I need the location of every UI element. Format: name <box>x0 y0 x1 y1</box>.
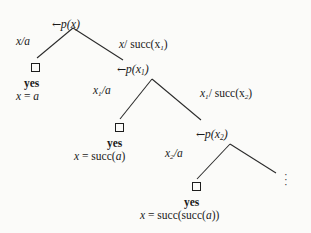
edge-label-l1-left-term: a <box>105 84 111 96</box>
left-arrow-icon-level2: ← <box>196 128 205 141</box>
edge-label-root-right-close: ) <box>164 38 168 50</box>
empty-clause-box-1 <box>31 63 40 72</box>
leaf-answer-3-close: )) <box>212 209 220 221</box>
goal-node-level2: ←p(x2) <box>196 128 228 140</box>
goal-node-level1: ←p(x1) <box>117 63 149 75</box>
leaf-yes-1: yes <box>24 77 39 89</box>
leaf-answer-1: x = a <box>16 90 39 102</box>
edge-label-root-right: x/ succ(x1) <box>119 39 168 51</box>
goal-level1-label: p(x <box>126 62 141 76</box>
edge-l2-right <box>230 144 276 173</box>
edge-label-l1-right-close: ) <box>248 87 252 99</box>
vertical-ellipsis-icon: · · · <box>284 172 287 187</box>
goal-level1-close: ) <box>145 62 149 76</box>
leaf-yes-3: yes <box>184 196 199 208</box>
empty-clause-box-2 <box>115 123 124 132</box>
empty-clause-box-3 <box>192 182 201 191</box>
edge-label-root-right-term: succ(x <box>130 38 160 50</box>
edge-label-l1-right: x1/ succ(x2) <box>200 88 252 100</box>
leaf-answer-3-eq: = <box>145 209 157 221</box>
leaf-yes-2: yes <box>107 137 122 149</box>
leaf-answer-1-eq: = <box>21 90 33 102</box>
edge-l2-left <box>197 144 230 179</box>
ellipsis-dot-3: · <box>284 182 287 187</box>
leaf-answer-3: x = succ(succ(a)) <box>140 209 219 221</box>
edge-label-root-left-term: a <box>24 35 30 47</box>
goal-root-label: p(x) <box>61 17 80 31</box>
edge-label-l1-left: x1/a <box>93 85 111 97</box>
edge-label-root-left: x/a <box>16 36 30 48</box>
leaf-answer-2-close: ) <box>121 150 125 162</box>
tree-edges <box>0 0 311 233</box>
left-arrow-icon-level1: ← <box>117 63 126 76</box>
goal-level2-close: ) <box>224 127 228 141</box>
edge-label-l1-right-term: succ(x <box>215 87 245 99</box>
leaf-answer-1-rhs: a <box>33 90 39 102</box>
sld-tree-figure: ←p(x) x/a x/ succ(x1) yes x = a ←p(x1) x… <box>0 0 311 233</box>
leaf-answer-2-eq: = <box>79 150 91 162</box>
leaf-answer-2-rhs: succ( <box>91 150 115 162</box>
goal-node-root: ←p(x) <box>52 18 80 30</box>
left-arrow-icon: ← <box>52 18 61 31</box>
edge-root-left <box>37 28 73 58</box>
edge-root-right <box>73 28 123 60</box>
leaf-answer-3-rhs: succ(succ( <box>157 209 206 221</box>
edge-l1-right <box>152 79 201 120</box>
goal-level2-label: p(x <box>205 127 220 141</box>
edge-label-l2-left: x2/a <box>165 148 183 160</box>
edge-label-l2-left-term: a <box>177 147 183 159</box>
edge-l1-left <box>120 79 152 119</box>
leaf-answer-2: x = succ(a) <box>74 150 125 162</box>
